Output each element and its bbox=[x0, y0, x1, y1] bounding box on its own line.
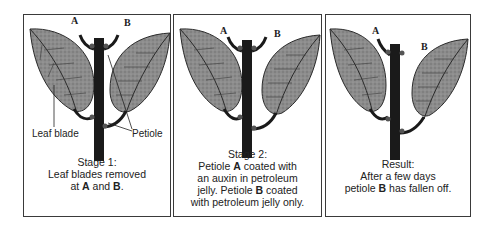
label-petiole: Petiole bbox=[132, 128, 163, 139]
caption-bold-a: A bbox=[233, 160, 241, 172]
caption-text: has fallen off. bbox=[386, 182, 451, 194]
caption-line: an auxin in petroleum bbox=[174, 172, 321, 184]
caption-line: Stage 1: bbox=[24, 156, 170, 168]
leader-line-petiole-bottom bbox=[108, 123, 132, 131]
label-b: B bbox=[274, 28, 281, 39]
caption-text: jelly. Petiole bbox=[197, 184, 255, 196]
caption-line: Leaf blades removed bbox=[24, 168, 170, 180]
label-a: A bbox=[372, 25, 379, 36]
caption-line: with petroleum jelly only. bbox=[174, 196, 321, 208]
caption-line: petiole B has fallen off. bbox=[326, 182, 470, 194]
caption-line: jelly. Petiole B coated bbox=[174, 184, 321, 196]
caption-text: petiole bbox=[345, 182, 379, 194]
caption-result: Result: After a few days petiole B has f… bbox=[326, 158, 470, 194]
caption-line: Petiole A coated with bbox=[174, 160, 321, 172]
panel-stage-1: A B Leaf blade Petiole Stage 1: Leaf bla… bbox=[23, 14, 171, 217]
label-a: A bbox=[220, 25, 227, 36]
label-b: B bbox=[421, 41, 428, 52]
caption-line: After a few days bbox=[326, 170, 470, 182]
caption-bold-b: B bbox=[379, 182, 387, 194]
caption-text: coated with bbox=[241, 160, 297, 172]
caption-bold-a: A bbox=[82, 180, 90, 192]
caption-text: coated bbox=[263, 184, 297, 196]
caption-text: at bbox=[70, 180, 82, 192]
panel-stage-2: A B Stage 2: Petiole A coated with an au… bbox=[173, 14, 322, 217]
caption-line: at A and B. bbox=[24, 180, 170, 192]
label-leaf-blade: Leaf blade bbox=[32, 128, 79, 139]
caption-line: Stage 2: bbox=[174, 148, 321, 160]
caption-stage-1: Stage 1: Leaf blades removed at A and B. bbox=[24, 156, 170, 192]
caption-text: and bbox=[90, 180, 113, 192]
caption-text: Petiole bbox=[198, 160, 233, 172]
panel-result: A B Result: After a few days petiole B h… bbox=[325, 14, 471, 217]
caption-stage-2: Stage 2: Petiole A coated with an auxin … bbox=[174, 148, 321, 208]
caption-bold-b: B bbox=[113, 180, 121, 192]
caption-text: . bbox=[121, 180, 124, 192]
label-a: A bbox=[71, 15, 78, 26]
caption-line: Result: bbox=[326, 158, 470, 170]
label-b: B bbox=[124, 17, 131, 28]
